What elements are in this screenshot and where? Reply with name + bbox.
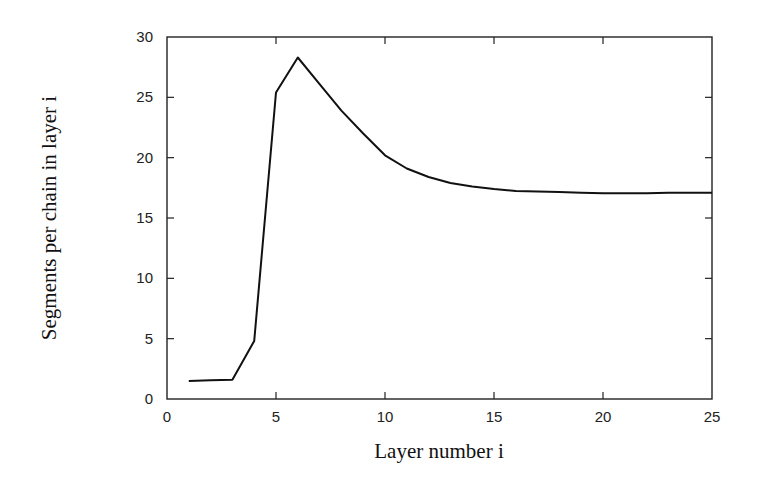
y-tick-label: 20: [136, 149, 153, 166]
y-tick-label: 10: [136, 269, 153, 286]
x-tick-label: 15: [486, 408, 503, 425]
plot-frame: [167, 37, 712, 399]
y-axis-ticks: 051015202530: [136, 28, 712, 407]
x-tick-label: 10: [377, 408, 394, 425]
y-axis-title: Segments per chain in layer i: [37, 96, 61, 341]
y-tick-label: 5: [145, 330, 153, 347]
x-axis-title: Layer number i: [374, 439, 504, 463]
y-tick-label: 15: [136, 209, 153, 226]
x-tick-label: 0: [163, 408, 171, 425]
x-tick-label: 20: [595, 408, 612, 425]
y-tick-label: 0: [145, 390, 153, 407]
data-series: [189, 58, 712, 381]
y-tick-label: 30: [136, 28, 153, 45]
y-tick-label: 25: [136, 88, 153, 105]
x-tick-label: 5: [272, 408, 280, 425]
x-axis-ticks: 0510152025: [163, 37, 721, 425]
x-tick-label: 25: [704, 408, 721, 425]
series-line: [189, 58, 712, 381]
plot-border: [167, 37, 712, 399]
line-chart: 0510152025 051015202530 Layer number i S…: [0, 0, 760, 480]
